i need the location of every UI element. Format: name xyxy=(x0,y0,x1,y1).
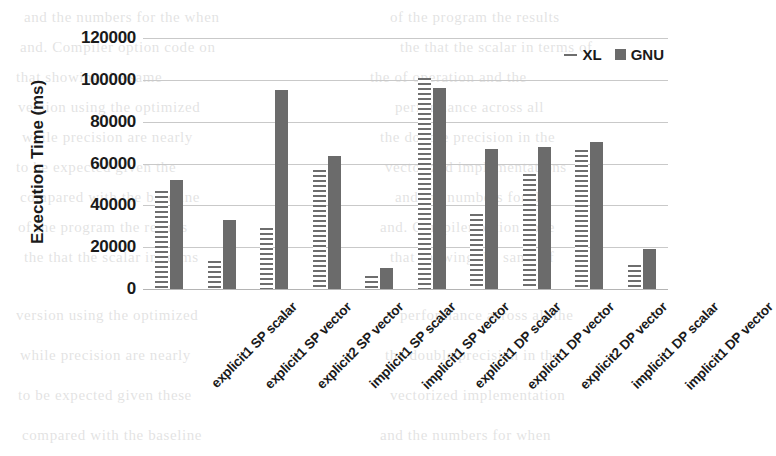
x-axis-category-label: explicit2 SP vector xyxy=(314,299,407,392)
x-axis-category-label: explicit1 DP scalar xyxy=(471,299,563,391)
bar-gnu[interactable] xyxy=(328,156,341,289)
bar-xl[interactable] xyxy=(575,150,588,289)
bar-xl[interactable] xyxy=(260,228,273,289)
bar-gnu[interactable] xyxy=(590,142,603,289)
bar-xl[interactable] xyxy=(523,174,536,289)
bar-gnu[interactable] xyxy=(433,88,446,289)
legend-label: XL xyxy=(582,46,601,63)
y-axis-tick-label: 40000 xyxy=(44,195,136,215)
y-axis-tick-label: 100000 xyxy=(44,70,136,90)
legend-entry-xl[interactable]: XL xyxy=(564,46,601,63)
bar-xl[interactable] xyxy=(313,170,326,289)
bar-group xyxy=(301,38,354,289)
bar-gnu[interactable] xyxy=(538,147,551,289)
bar-xl[interactable] xyxy=(628,265,641,289)
bar-series-container xyxy=(143,38,668,289)
bar-group xyxy=(406,38,459,289)
y-axis-tick-labels: 120000100000800006000040000200000 xyxy=(44,28,136,290)
bar-xl[interactable] xyxy=(208,261,221,289)
y-axis-tick-label: 120000 xyxy=(44,28,136,48)
bar-gnu[interactable] xyxy=(170,180,183,289)
bar-group xyxy=(563,38,616,289)
bar-group xyxy=(353,38,406,289)
bar-group xyxy=(248,38,301,289)
bar-group xyxy=(196,38,249,289)
bar-gnu[interactable] xyxy=(380,268,393,289)
chart-legend: XLGNU xyxy=(564,46,664,63)
x-axis-category-labels: explicit1 SP scalarexplicit1 SP vectorex… xyxy=(143,289,668,449)
plot-area xyxy=(143,38,668,289)
y-axis-tick-label: 20000 xyxy=(44,237,136,257)
legend-square-icon xyxy=(615,49,626,60)
bar-gnu[interactable] xyxy=(485,149,498,289)
y-axis-tick-label: 60000 xyxy=(44,154,136,174)
bar-gnu[interactable] xyxy=(223,220,236,289)
bar-group xyxy=(458,38,511,289)
bar-xl[interactable] xyxy=(470,214,483,289)
bar-group xyxy=(616,38,669,289)
bar-xl[interactable] xyxy=(155,191,168,289)
bar-group xyxy=(511,38,564,289)
legend-label: GNU xyxy=(631,46,664,63)
bar-xl[interactable] xyxy=(365,276,378,289)
bar-gnu[interactable] xyxy=(643,249,656,289)
bar-xl[interactable] xyxy=(418,78,431,289)
y-axis-tick-label: 0 xyxy=(44,279,136,299)
y-axis-tick-label: 80000 xyxy=(44,112,136,132)
bar-gnu[interactable] xyxy=(275,90,288,289)
legend-line-icon xyxy=(564,54,577,56)
legend-entry-gnu[interactable]: GNU xyxy=(615,46,664,63)
bar-group xyxy=(143,38,196,289)
